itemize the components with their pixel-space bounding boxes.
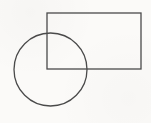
- diagram-canvas: [0, 0, 151, 123]
- rectangle-shape: [47, 13, 141, 69]
- shapes-svg: [0, 0, 151, 123]
